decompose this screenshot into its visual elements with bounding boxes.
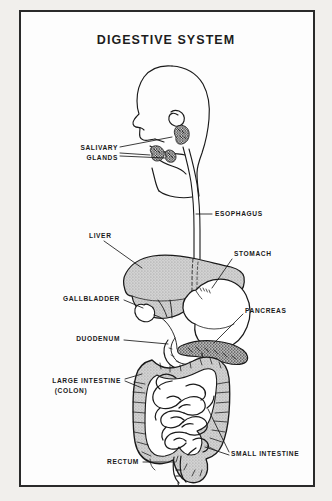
label-large-intestine: LARGE INTESTINE (COLON): [21, 376, 121, 395]
page-title: DIGESTIVE SYSTEM: [0, 33, 332, 47]
page-background: DIGESTIVE SYSTEM SALIVARY GLANDS ESOPHAG…: [0, 0, 332, 501]
label-rectum-line1: RECTUM: [79, 457, 139, 467]
label-liver-line1: LIVER: [89, 231, 112, 241]
head-profile-outline: [133, 66, 209, 198]
label-rectum: RECTUM: [79, 457, 139, 467]
label-esophagus: ESOPHAGUS: [215, 209, 263, 219]
label-pancreas: PANCREAS: [245, 306, 286, 316]
label-stomach: STOMACH: [234, 249, 272, 259]
leader-liver: [104, 241, 142, 268]
digestive-system-illustration: [0, 0, 332, 501]
label-gallbladder: GALLBLADDER: [30, 294, 120, 304]
label-salivary-glands: SALIVARY GLANDS: [28, 143, 118, 162]
leader-salivary-submandibular: [120, 153, 150, 155]
label-duodenum-line1: DUODENUM: [30, 334, 120, 344]
label-salivary-glands-line2: GLANDS: [28, 153, 118, 163]
salivary-gland-parotid: [174, 125, 189, 144]
salivary-gland-sublingual: [165, 150, 176, 162]
label-salivary-glands-line1: SALIVARY: [28, 143, 118, 153]
large-intestine-colon: [133, 357, 230, 482]
label-stomach-line1: STOMACH: [234, 249, 272, 259]
label-liver: LIVER: [89, 231, 112, 241]
label-esophagus-line1: ESOPHAGUS: [215, 209, 263, 219]
label-small-intestine: SMALL INTESTINE: [231, 449, 299, 459]
label-small-intestine-line1: SMALL INTESTINE: [231, 449, 299, 459]
label-large-intestine-line1: LARGE INTESTINE: [21, 376, 121, 386]
salivary-gland-submandibular: [150, 146, 164, 161]
label-pancreas-line1: PANCREAS: [245, 306, 286, 316]
label-gallbladder-line1: GALLBLADDER: [30, 294, 120, 304]
leader-duodenum: [124, 340, 168, 344]
label-large-intestine-line2: (COLON): [21, 386, 121, 396]
esophagus-tube: [183, 147, 200, 259]
label-duodenum: DUODENUM: [30, 334, 120, 344]
